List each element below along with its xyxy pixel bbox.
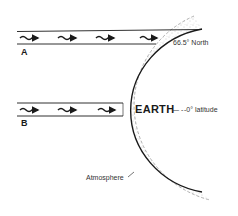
beam-b — [17, 103, 123, 116]
atmosphere-label: Atmosphere — [86, 174, 124, 181]
beam-a-label: A — [21, 48, 28, 57]
sun-ray-arrow-icon — [98, 109, 115, 112]
north-latitude-label: 66.5° North — [173, 39, 209, 46]
equator-latitude-label: -0° latitude — [184, 106, 218, 113]
sun-ray-arrow-icon — [58, 37, 76, 40]
sun-ray-arrow-icon — [140, 37, 157, 40]
earth-label: EARTH — [135, 104, 174, 115]
sun-ray-arrow-icon — [96, 37, 114, 40]
atmosphere-leader-line — [128, 172, 134, 177]
sun-ray-arrow-icon — [58, 109, 76, 112]
sun-ray-arrow-icon — [20, 109, 38, 112]
sun-ray-arrow-icon — [20, 37, 38, 40]
beam-b-label: B — [21, 119, 28, 128]
equator-leader: — - — [172, 106, 183, 113]
